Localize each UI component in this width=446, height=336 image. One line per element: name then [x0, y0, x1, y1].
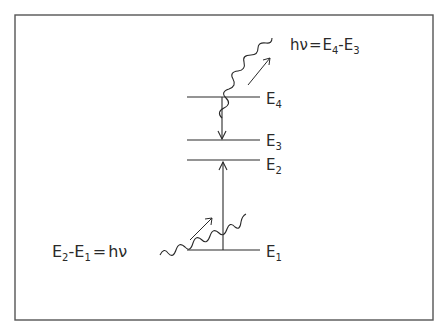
incoming-photon-equation: E2-E1=hν	[52, 242, 127, 263]
label-e1: E1	[266, 243, 282, 263]
outgoing-photon-wave	[219, 38, 272, 118]
energy-level-diagram: E4 E3 E2 E1 E2-E1=hν hν=E4-E3	[0, 0, 446, 336]
label-e2: E2	[266, 156, 282, 176]
incoming-photon-wave	[160, 214, 246, 255]
label-e4: E4	[266, 90, 282, 110]
label-e3: E3	[266, 132, 282, 152]
level-labels: E4 E3 E2 E1	[266, 90, 282, 263]
diagram-frame	[15, 15, 433, 320]
transition-arrows	[218, 97, 227, 250]
outgoing-photon-direction	[248, 58, 270, 85]
incoming-photon-direction	[190, 218, 212, 240]
outgoing-photon-equation: hν=E4-E3	[290, 36, 360, 56]
